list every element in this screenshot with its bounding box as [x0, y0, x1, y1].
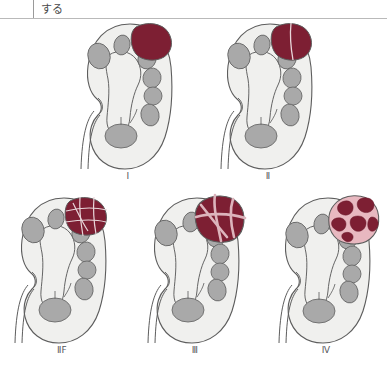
header-divider	[33, 0, 34, 19]
cyst-bosniak-3	[195, 195, 245, 242]
panel-bosniak-1: Ⅰ	[68, 19, 188, 189]
cyst-bosniak-2f	[65, 197, 107, 236]
cyst-bosniak-4	[329, 196, 379, 244]
panel-bosniak-2f: ⅡF	[2, 193, 122, 365]
panel-label-4: Ⅳ	[266, 345, 386, 355]
kidney-diagram-2	[208, 19, 328, 174]
bosniak-figure: Ⅰ	[0, 19, 387, 365]
page-header: する	[0, 0, 387, 19]
kidney-diagram-3	[135, 193, 255, 348]
panel-label-2: Ⅱ	[208, 171, 328, 181]
figure-page: する	[0, 0, 387, 365]
header-text: する	[41, 1, 63, 18]
panel-label-1: Ⅰ	[68, 171, 188, 181]
panel-label-2f: ⅡF	[2, 345, 122, 355]
panel-bosniak-4: Ⅳ	[266, 193, 386, 365]
panel-bosniak-3: Ⅲ	[135, 193, 255, 365]
kidney-diagram-1	[68, 19, 188, 174]
cyst-bosniak-1	[131, 24, 171, 61]
kidney-diagram-4	[266, 193, 386, 348]
cyst-bosniak-2	[271, 23, 311, 60]
panel-bosniak-2: Ⅱ	[208, 19, 328, 189]
panel-label-3: Ⅲ	[135, 345, 255, 355]
kidney-diagram-2f	[2, 193, 122, 348]
